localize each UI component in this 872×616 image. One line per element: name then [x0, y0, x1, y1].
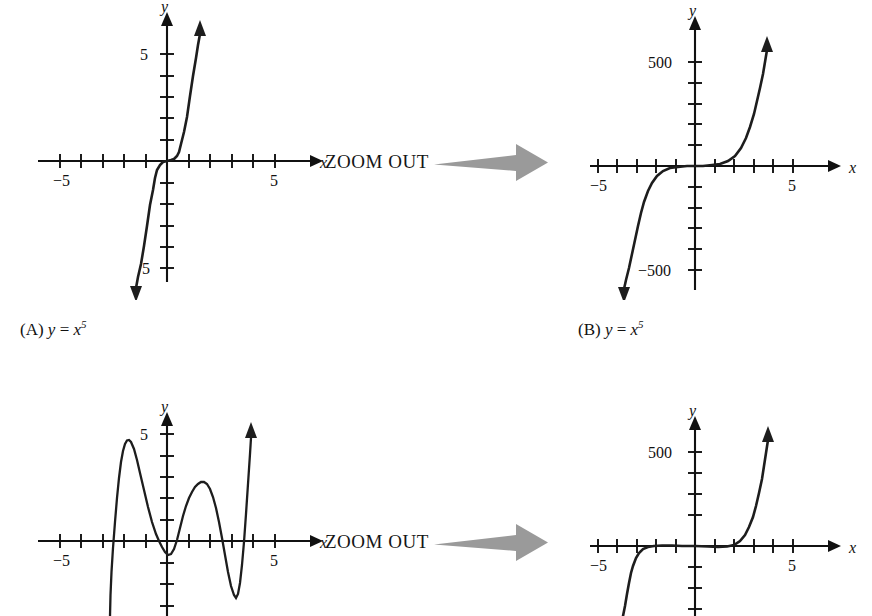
- curve-top-arrowhead: [194, 20, 206, 36]
- zoom-out-label-2: ZOOM OUT: [325, 531, 429, 553]
- zoom-out-arrow-2: [432, 520, 550, 570]
- y-tick-label-500: 500: [648, 54, 672, 71]
- caption-b: (B) y = x5: [578, 318, 644, 340]
- x-tick-label-neg5: −5: [53, 172, 70, 189]
- curve-top-arrowhead: [762, 426, 774, 442]
- panel-d-svg: x y −5 5 500: [560, 380, 865, 616]
- caption-b-lhs: y: [605, 320, 613, 339]
- panel-d-graph: x y −5 5 500: [560, 380, 865, 616]
- y-axis-label: y: [159, 398, 169, 416]
- curve-quintic: [110, 438, 251, 616]
- zoom-out-label-1: ZOOM OUT: [325, 151, 429, 173]
- y-axis-label: y: [687, 402, 697, 420]
- panel-b-svg: x y −5 5 500 −500: [560, 0, 865, 300]
- y-tick-label-neg500: −500: [638, 262, 671, 279]
- y-tick-label-neg5: 5: [142, 260, 150, 277]
- caption-a-exp: 5: [81, 318, 87, 330]
- caption-b-tag: (B): [578, 320, 601, 339]
- curve-top-arrowhead: [761, 36, 773, 52]
- y-tick-label-5: 5: [140, 426, 148, 443]
- caption-b-exp: 5: [638, 318, 644, 330]
- panel-b-graph: x y −5 5 500 −500: [560, 0, 865, 300]
- panel-c-svg: x y −5 5 5: [20, 380, 330, 616]
- x-tick-label-5: 5: [270, 552, 278, 569]
- y-tick-label-500: 500: [648, 444, 672, 461]
- zoom-out-arrow-1: [432, 140, 550, 190]
- x-tick-label-neg5: −5: [53, 552, 70, 569]
- caption-a-tag: (A): [20, 320, 44, 339]
- x-axis-label: x: [848, 539, 856, 556]
- curve-top-arrowhead: [245, 422, 257, 438]
- y-tick-label-5: 5: [140, 46, 148, 63]
- x-axis-arrowhead: [828, 160, 841, 172]
- x-tick-label-5: 5: [788, 177, 796, 194]
- x-tick-label-neg5: −5: [590, 557, 607, 574]
- right-arrow-icon: [432, 140, 550, 186]
- curve-bottom-arrowhead: [618, 287, 630, 300]
- panel-a-svg: x y −5 5 5 5: [20, 0, 330, 300]
- x-tick-label-neg5: −5: [590, 177, 607, 194]
- y-axis-label: y: [159, 0, 169, 16]
- arrow-shape: [434, 144, 548, 181]
- x-axis-label: x: [848, 159, 856, 176]
- x-tick-label-5: 5: [270, 172, 278, 189]
- x-tick-label-5: 5: [788, 557, 796, 574]
- panel-c-graph: x y −5 5 5: [20, 380, 330, 616]
- caption-a-base: x: [74, 320, 82, 339]
- x-axis-arrowhead: [828, 540, 841, 552]
- caption-a-lhs: y: [48, 320, 56, 339]
- y-axis-label: y: [687, 2, 697, 20]
- arrow-shape: [434, 524, 548, 561]
- panel-a-graph: x y −5 5 5 5: [20, 0, 330, 300]
- right-arrow-icon: [432, 520, 550, 566]
- caption-a-eq: =: [60, 320, 70, 339]
- caption-b-eq: =: [617, 320, 627, 339]
- curve-bottom-arrowhead: [130, 286, 142, 300]
- caption-a: (A) y = x5: [20, 318, 87, 340]
- caption-b-base: x: [631, 320, 639, 339]
